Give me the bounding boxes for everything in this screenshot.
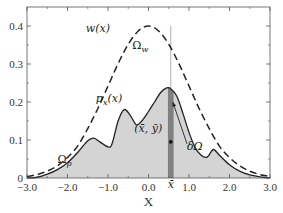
annotation-label: (x̄, ȳ) (134, 122, 162, 135)
annotation-label: x̄ (168, 178, 175, 191)
y-tick-label: 0.2 (9, 96, 23, 108)
x-tick-label: −1.0 (98, 181, 118, 193)
x-tick-label: −2.0 (58, 181, 78, 193)
annotation-label: Ωw (132, 39, 148, 54)
x-tick-label: 1.0 (182, 181, 196, 193)
chart: −3.0−2.0−1.00.01.02.03.000.10.20.30.4X w… (0, 0, 283, 213)
y-tick-label: 0.1 (9, 134, 23, 146)
x-axis-title: X (144, 194, 154, 209)
y-tick-label: 0 (18, 172, 24, 184)
x-tick-label: 3.0 (263, 181, 277, 193)
x-tick-label: 0.0 (142, 181, 156, 193)
y-tick-label: 0.3 (9, 58, 23, 70)
annotation-label: w(x) (86, 22, 110, 35)
annotation-label: px(x) (96, 92, 122, 107)
y-tick-label: 0.4 (9, 20, 23, 32)
x-tick-label: 2.0 (223, 181, 237, 193)
axis-layer: −3.0−2.0−1.00.01.02.03.000.10.20.30.4X (9, 7, 277, 209)
annotation-label: δΩ (187, 140, 203, 153)
centroid-point (169, 140, 173, 144)
